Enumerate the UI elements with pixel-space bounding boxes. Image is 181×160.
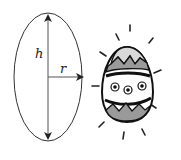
diagram-canvas: h r [0, 0, 181, 160]
radius-label: r [60, 61, 67, 76]
height-label: h [35, 46, 43, 61]
easter-egg-icon [92, 25, 161, 139]
ellipse-diagram: h r [14, 13, 82, 141]
